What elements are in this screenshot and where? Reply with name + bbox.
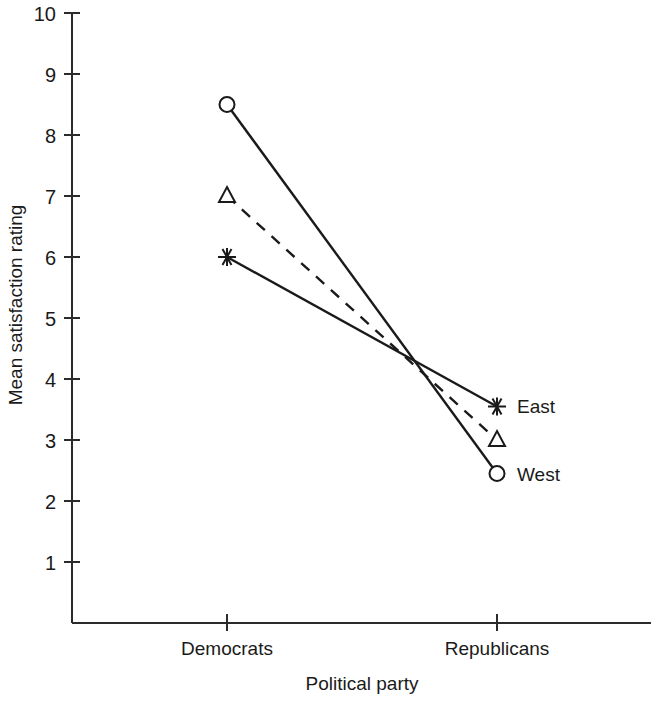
series-east-line — [227, 257, 497, 407]
y-tick-label-5: 5 — [45, 308, 56, 330]
marker-west-democrats — [220, 97, 235, 112]
y-tick-label-4: 4 — [45, 369, 56, 391]
y-tick-label-3: 3 — [45, 430, 56, 452]
y-tick-label-6: 6 — [45, 247, 56, 269]
x-tick-label-republicans: Republicans — [445, 638, 550, 659]
y-tick-label-7: 7 — [45, 186, 56, 208]
marker-east-democrats — [218, 248, 236, 266]
y-tick-label-2: 2 — [45, 491, 56, 513]
series-west-line — [227, 105, 497, 474]
x-axis-title: Political party — [306, 673, 419, 694]
marker-west-republicans — [490, 466, 505, 481]
legend-label-east: East — [517, 396, 556, 417]
series-triangle — [219, 187, 505, 446]
y-tick-labels: 10 9 8 7 6 5 4 3 2 1 — [34, 3, 56, 574]
x-tick-labels: Democrats Republicans — [181, 638, 549, 659]
x-tick-label-democrats: Democrats — [181, 638, 273, 659]
legend-label-west: West — [517, 464, 561, 485]
y-tick-label-9: 9 — [45, 64, 56, 86]
chart-canvas: 10 9 8 7 6 5 4 3 2 1 Democrats Republica… — [0, 0, 651, 703]
line-chart: 10 9 8 7 6 5 4 3 2 1 Democrats Republica… — [0, 0, 651, 703]
legend: East West — [517, 396, 561, 485]
marker-east-republicans — [488, 398, 506, 416]
y-tick-label-1: 1 — [45, 552, 56, 574]
marker-triangle-democrats — [219, 187, 235, 202]
y-tick-label-8: 8 — [45, 125, 56, 147]
series-east — [218, 248, 506, 416]
series-west — [220, 97, 505, 481]
series-triangle-line — [227, 196, 497, 440]
marker-triangle-republicans — [489, 431, 505, 446]
y-axis-title: Mean satisfaction rating — [5, 205, 26, 406]
y-tick-label-10: 10 — [34, 3, 56, 25]
